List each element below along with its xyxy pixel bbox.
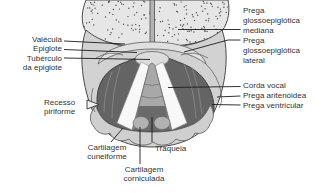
label-cartilagem-corniculada: Cartilagem corniculada: [112, 165, 176, 184]
label-mediana-line3: mediana: [243, 26, 300, 36]
label-lateral-line1: Prega: [243, 36, 300, 46]
label-epiglote: Epiglote: [23, 44, 62, 53]
leader-line-ventricular: [212, 105, 241, 106]
label-lateral-line2: glossoepiglótica: [243, 46, 300, 56]
label-prega-glossoepiglotica-mediana: Prega glossoepiglótica mediana: [243, 6, 300, 36]
label-prega-ventricular: Prega ventricular: [243, 101, 303, 110]
label-mediana-line2: glossoepiglótica: [243, 16, 300, 26]
label-tuberculo-da-epiglote: Tubérculo: [23, 54, 62, 63]
label-valecula: Valécula: [23, 35, 62, 44]
corniculate-tubercle-right-shape: [154, 117, 170, 130]
label-recesso-line2: piriforme: [44, 107, 75, 116]
label-cuneiforme-line1: Cartilagem: [80, 143, 134, 152]
label-cartilagem-cuneiforme: Cartilagem cuneiforme: [80, 143, 134, 162]
label-mediana-line1: Prega: [243, 6, 300, 16]
label-corniculada-line1: Cartilagem: [112, 165, 176, 174]
diagram-root: Valécula Epiglote Tubérculo da epiglote …: [0, 0, 331, 193]
label-prega-aritenoidea: Prega aritenóidea: [243, 91, 306, 100]
label-recesso-piriforme: Recesso piriforme: [44, 98, 75, 117]
label-lateral-line3: lateral: [243, 56, 300, 66]
label-traqueia: Traqueia: [155, 144, 186, 153]
label-prega-glossoepiglotica-lateral: Prega glossoepiglótica lateral: [243, 36, 300, 66]
left-label-column: Valécula Epiglote Tubérculo da epiglote: [23, 35, 62, 72]
label-cuneiforme-line2: cuneiforme: [80, 152, 134, 161]
corniculate-tubercle-left-shape: [133, 117, 149, 130]
label-tuberculo-da-epiglote-line2: da epiglote: [23, 63, 62, 72]
label-recesso-line1: Recesso: [44, 98, 75, 107]
label-corda-vocal: Corda vocal: [243, 81, 286, 90]
median-fold-shape: [150, 0, 155, 43]
label-corniculada-line2: corniculada: [112, 174, 176, 183]
